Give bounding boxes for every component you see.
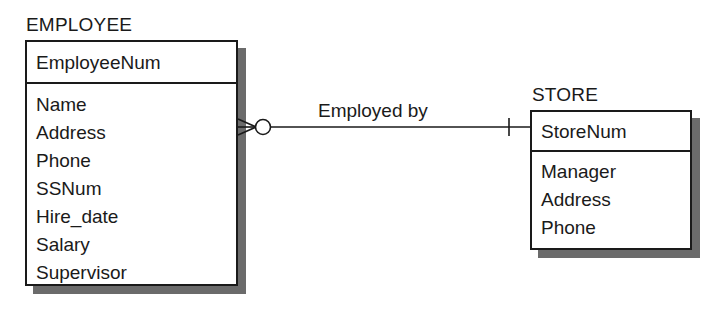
attribute-row: Address: [541, 185, 690, 213]
entity-title-store: STORE: [532, 84, 598, 106]
attribute-label: SSNum: [36, 178, 101, 199]
attribute-row: Supervisor: [36, 258, 236, 286]
attribute-row: Name: [36, 90, 236, 118]
attribute-label: Name: [36, 94, 87, 115]
attribute-label: Supervisor: [36, 262, 127, 283]
entity-attributes-employee: Name Address Phone SSNum Hire_date Salar…: [27, 84, 236, 286]
attribute-label: Hire_date: [36, 206, 118, 227]
attribute-label: Address: [541, 189, 611, 210]
attribute-row: Phone: [541, 213, 690, 241]
entity-box-store[interactable]: StoreNum Manager Address Phone: [530, 110, 692, 250]
entity-key-employee: EmployeeNum: [27, 42, 236, 84]
er-diagram-canvas: EMPLOYEE EmployeeNum Name Address Phone …: [0, 0, 719, 313]
attribute-label: Address: [36, 122, 106, 143]
attribute-row: Address: [36, 118, 236, 146]
attribute-label: Phone: [541, 217, 596, 238]
attribute-row: Salary: [36, 230, 236, 258]
key-attribute-label: EmployeeNum: [36, 52, 161, 73]
entity-title-employee: EMPLOYEE: [26, 14, 132, 36]
attribute-row: Manager: [541, 157, 690, 185]
entity-box-employee[interactable]: EmployeeNum Name Address Phone SSNum Hir…: [25, 40, 238, 286]
attribute-row: Phone: [36, 146, 236, 174]
attribute-row: SSNum: [36, 174, 236, 202]
attribute-row: Hire_date: [36, 202, 236, 230]
entity-attributes-store: Manager Address Phone: [532, 152, 690, 241]
attribute-label: Manager: [541, 161, 616, 182]
entity-key-store: StoreNum: [532, 112, 690, 152]
key-attribute-label: StoreNum: [541, 121, 627, 142]
attribute-label: Salary: [36, 234, 90, 255]
relationship-label: Employed by: [318, 100, 428, 122]
attribute-label: Phone: [36, 150, 91, 171]
optionality-circle-icon: [256, 120, 271, 135]
